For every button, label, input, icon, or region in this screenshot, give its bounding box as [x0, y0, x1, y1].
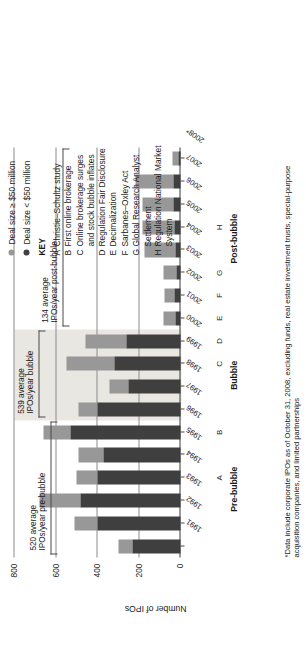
x-tickmark-1996 [180, 431, 184, 432]
key-text-cont-G: Settlement [142, 128, 153, 246]
legend-small-deal-swatch-icon [23, 249, 29, 255]
y-tick-600: 600 [50, 563, 60, 597]
bar-segment-small-deal [97, 516, 180, 530]
key-item-C: COnline brokerage surges [74, 128, 85, 255]
key-letter-H: H [152, 246, 173, 255]
x-tickmark-2002 [180, 294, 184, 295]
x-tickmark-2007 [180, 180, 184, 181]
bar-segment-large-deal [163, 265, 175, 279]
x-tickmark-2006 [180, 203, 184, 204]
bar-segment-small-deal [132, 539, 180, 553]
x-tickmark-1992 [180, 522, 184, 523]
key-text-F: Sarbanes–Oxley Act [119, 170, 130, 246]
x-tick-2000: 2000 [184, 311, 203, 328]
bar-1993 [39, 493, 180, 507]
key-item-F: FSarbanes–Oxley Act [119, 128, 130, 255]
legend-small-deal: Deal size < $50 million [21, 160, 31, 255]
y-axis-title: Number of IPOs [124, 603, 186, 613]
bar-1994 [76, 470, 180, 484]
legend-small-deal-label: Deal size < $50 million [21, 160, 31, 244]
event-marker-E: E [214, 308, 223, 328]
ipo-chart-figure: Number of IPOs 0200400600800 19911992199… [0, 0, 306, 649]
bar-segment-small-deal [128, 379, 180, 393]
key-text-C: Online brokerage surges [74, 154, 85, 246]
key-item-E: EDecimalization [107, 128, 118, 255]
bar-segment-large-deal [164, 288, 173, 302]
key-item-G: GGlobal Research Analyst [130, 128, 141, 255]
bar-segment-small-deal [103, 447, 180, 461]
bar-2003 [163, 265, 180, 279]
bar-1998 [109, 379, 180, 393]
key-letter-B: B [62, 246, 73, 255]
period-label-bubble: Bubble [228, 325, 238, 425]
bar-segment-large-deal [118, 539, 133, 553]
bar-2002 [164, 288, 180, 302]
x-tick-1991: 1991 [184, 516, 203, 533]
period-label-post-bubble: Post-bubble [228, 188, 238, 288]
bar-segment-large-deal [76, 470, 97, 484]
x-tick-2001: 2001 [184, 289, 203, 306]
key-block: KEYAChristie–Schultz studyBFirst online … [36, 128, 174, 255]
legend-large-deal-label: Deal size ≥ $50 million [6, 160, 16, 244]
x-tickmark-2003 [180, 271, 184, 272]
annot-pre-bubble-bracket [50, 421, 57, 554]
bar-segment-large-deal [78, 447, 103, 461]
y-tick-800: 800 [8, 563, 18, 597]
key-item-B: BFirst online brokerage [62, 128, 73, 255]
event-marker-D: D [214, 331, 223, 351]
key-letter-C: C [74, 246, 85, 255]
y-tick-200: 200 [133, 563, 143, 597]
key-text-cont-C: and stock bubble inflates [85, 128, 96, 246]
bar-segment-large-deal [109, 379, 128, 393]
x-tick-2004: 2004 [184, 220, 203, 237]
x-tickmark-1997 [180, 408, 184, 409]
key-text-H: Regulation National Market System [152, 128, 173, 246]
bar-2000 [85, 334, 180, 348]
x-tickmark-2000 [180, 340, 184, 341]
annot-bubble-line2: IPOs/year bubble [25, 350, 34, 413]
legend-large-deal: Deal size ≥ $50 million [6, 160, 16, 255]
annot-pre-bubble-line2: IPOs/year pre-bubble [37, 472, 46, 550]
bar-segment-large-deal [66, 356, 114, 370]
x-tickmark-1998 [180, 385, 184, 386]
x-tickmark-1999 [180, 362, 184, 363]
bar-segment-small-deal [70, 425, 180, 439]
x-tickmark-2004 [180, 249, 184, 250]
x-tick-1994: 1994 [184, 448, 203, 465]
key-letter-F: F [119, 246, 130, 255]
bar-segment-small-deal [97, 470, 180, 484]
x-tick-2007: 2007 [184, 152, 203, 169]
bar-segment-small-deal [80, 493, 180, 507]
x-axis-line [179, 147, 180, 557]
annot-bubble-bracket [38, 330, 45, 417]
x-tick-1998: 1998 [184, 357, 203, 374]
bar-segment-large-deal [163, 311, 174, 325]
x-tickmark-1995 [180, 454, 184, 455]
bar-1997 [78, 402, 180, 416]
bar-segment-large-deal [74, 516, 97, 530]
bar-segment-large-deal [78, 402, 97, 416]
annot-pre-bubble: 520 averageIPOs/year pre-bubble [28, 472, 46, 550]
key-item-H: HRegulation National Market System [152, 128, 173, 255]
annot-pre-bubble-line1: 520 average [28, 472, 37, 550]
y-tick-0: 0 [174, 563, 184, 597]
key-text-A: Christie–Schultz study [51, 163, 62, 246]
key-item-A: AChristie–Schultz study [51, 128, 62, 255]
x-tick-1992: 1992 [184, 494, 203, 511]
x-tickmark-1991 [180, 545, 184, 546]
event-marker-C: C [214, 353, 223, 373]
x-tick-1995: 1995 [184, 425, 203, 442]
event-marker-B: B [214, 422, 223, 442]
bar-segment-large-deal [85, 334, 127, 348]
event-marker-F: F [214, 285, 223, 305]
key-item-D: DRegulation Fair Disclosure [96, 128, 107, 255]
event-marker-A: A [214, 467, 223, 487]
x-tick-2003: 2003 [184, 243, 203, 260]
footnote: *Data include corporate IPOs as of Octob… [283, 137, 301, 557]
bar-1996 [43, 425, 180, 439]
x-tickmark-1994 [180, 476, 184, 477]
key-text-E: Decimalization [107, 192, 118, 246]
key-letter-G: G [130, 246, 141, 255]
bar-1995 [78, 447, 180, 461]
x-tickmark-2008 [180, 157, 184, 158]
